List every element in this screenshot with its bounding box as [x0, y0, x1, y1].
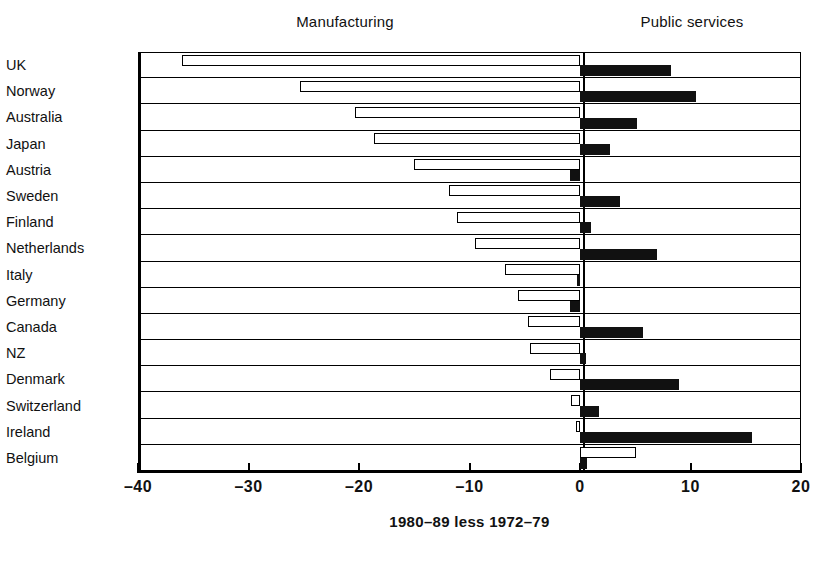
x-axis-tick-label: –40 [124, 478, 152, 496]
chart-row [138, 183, 801, 209]
chart-container: Manufacturing Public services UKNorwayAu… [0, 0, 837, 563]
bar-manufacturing [475, 238, 580, 249]
chart-row [138, 366, 801, 392]
chart-caption: 1980–89 less 1972–79 [138, 513, 801, 530]
category-label-australia: Australia [6, 110, 132, 125]
x-axis-tick [358, 463, 360, 473]
chart-row [138, 288, 801, 314]
category-label-ireland: Ireland [6, 425, 132, 440]
bar-public-services [580, 249, 657, 260]
x-axis-tick [248, 463, 250, 473]
bar-manufacturing [518, 290, 580, 301]
chart-row [138, 131, 801, 157]
bar-public-services [580, 65, 671, 76]
bar-public-services [570, 170, 580, 181]
bar-public-services [580, 118, 637, 129]
category-label-norway: Norway [6, 84, 132, 99]
category-label-denmark: Denmark [6, 372, 132, 387]
category-label-finland: Finland [6, 215, 132, 230]
chart-row [138, 262, 801, 288]
category-label-canada: Canada [6, 320, 132, 335]
bar-manufacturing [355, 107, 580, 118]
bar-public-services [580, 432, 752, 443]
x-axis-tick-label: 0 [575, 478, 584, 496]
bar-manufacturing [374, 133, 580, 144]
bar-public-services [580, 196, 620, 207]
chart-row [138, 314, 801, 340]
bar-manufacturing [449, 185, 580, 196]
x-axis-tick-label: 20 [792, 478, 811, 496]
bar-manufacturing [300, 81, 580, 92]
bar-public-services [580, 144, 610, 155]
bar-manufacturing [414, 159, 580, 170]
bar-manufacturing [530, 343, 580, 354]
bar-public-services [580, 406, 599, 417]
chart-row [138, 52, 801, 78]
bar-public-services [580, 91, 696, 102]
category-label-austria: Austria [6, 163, 132, 178]
category-label-netherlands: Netherlands [6, 241, 132, 256]
bar-public-services [580, 458, 587, 469]
x-axis-tick [469, 463, 471, 473]
chart-row [138, 419, 801, 445]
x-axis-tick-label: –30 [234, 478, 262, 496]
x-axis-tick [800, 463, 802, 473]
bar-public-services [577, 275, 580, 286]
category-label-switzerland: Switzerland [6, 399, 132, 414]
category-label-sweden: Sweden [6, 189, 132, 204]
bar-public-services [580, 222, 591, 233]
chart-row [138, 340, 801, 366]
bar-public-services [570, 301, 580, 312]
chart-row [138, 209, 801, 235]
category-label-nz: NZ [6, 346, 132, 361]
chart-row [138, 392, 801, 418]
chart-row [138, 235, 801, 261]
category-label-uk: UK [6, 58, 132, 73]
bar-manufacturing [571, 395, 580, 406]
bar-manufacturing [182, 55, 580, 66]
x-axis-tick-label: –10 [455, 478, 483, 496]
x-axis-tick-label: –20 [345, 478, 373, 496]
chart-row [138, 104, 801, 130]
category-label-germany: Germany [6, 294, 132, 309]
bar-manufacturing [528, 316, 580, 327]
x-axis-tick [690, 463, 692, 473]
x-axis-tick [137, 463, 139, 473]
x-axis-tick-label: 10 [681, 478, 700, 496]
bar-manufacturing [576, 421, 580, 432]
category-label-belgium: Belgium [6, 451, 132, 466]
bar-public-services [580, 327, 643, 338]
category-label-japan: Japan [6, 137, 132, 152]
bar-manufacturing [580, 447, 636, 458]
chart-row [138, 157, 801, 183]
bar-public-services [580, 353, 586, 364]
category-label-italy: Italy [6, 268, 132, 283]
bar-public-services [580, 379, 679, 390]
chart-row [138, 78, 801, 104]
bar-manufacturing [457, 212, 580, 223]
bar-manufacturing [505, 264, 580, 275]
bar-manufacturing [550, 369, 580, 380]
panel-heading-public-services: Public services [583, 13, 801, 30]
